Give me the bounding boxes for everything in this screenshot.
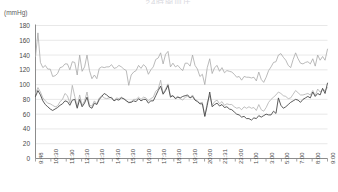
x-axis-tick-label: 13:30 <box>99 148 105 163</box>
x-axis-tick-label: 19:30 <box>192 148 198 163</box>
series-line-systolic-bp <box>36 33 328 85</box>
x-axis-tick-label: 5:00 <box>284 152 290 164</box>
y-axis-tick-label: 40 <box>8 125 30 132</box>
y-axis-tick-label: 80 <box>8 96 30 103</box>
x-axis-tick-label: 3:00 <box>269 152 275 164</box>
y-axis-tick-label: 0 <box>8 155 30 162</box>
y-axis-tick-label: 60 <box>8 111 30 118</box>
y-axis-tick-label: 140 <box>8 52 30 59</box>
x-axis-tick-label: 16:30 <box>146 148 152 163</box>
x-axis-tick-label: 21:31 <box>222 148 228 163</box>
data-series-layer <box>36 33 328 120</box>
y-axis-tick-label: 100 <box>8 81 30 88</box>
x-axis-tick-label: 9:48 <box>38 152 44 164</box>
y-axis-tick-label: 120 <box>8 66 30 73</box>
series-line-mean-bp <box>36 80 328 116</box>
blood-pressure-chart: 24時間血圧 (mmHg) 180160140120100806040200 9… <box>0 0 338 192</box>
x-axis-tick-label: 9:00 <box>330 152 336 164</box>
x-axis-tick-label: 10:30 <box>53 148 59 163</box>
x-axis-tick-label: 12:30 <box>84 148 90 163</box>
y-axis-tick-label: 180 <box>8 22 30 29</box>
x-axis-tick-label: 20:00 <box>207 148 213 163</box>
y-axis-tick-label: 20 <box>8 140 30 147</box>
x-axis-tick-label: 23:00 <box>238 148 244 163</box>
x-axis-tick-label: 15:30 <box>130 148 136 163</box>
x-axis-tick-label: 14:30 <box>115 148 121 163</box>
x-axis-tick-label: 1:00 <box>253 152 259 164</box>
y-axis-tick-label: 160 <box>8 37 30 44</box>
axis-lines <box>36 25 328 159</box>
x-axis-tick-label: 18:30 <box>176 148 182 163</box>
x-axis-tick-label: 8:00 <box>315 152 321 164</box>
x-axis-tick-label: 11:30 <box>69 149 75 164</box>
x-axis-tick-label: 7:00 <box>299 152 305 164</box>
x-axis-tick-label: 17:30 <box>161 148 167 163</box>
gridlines <box>36 26 328 159</box>
